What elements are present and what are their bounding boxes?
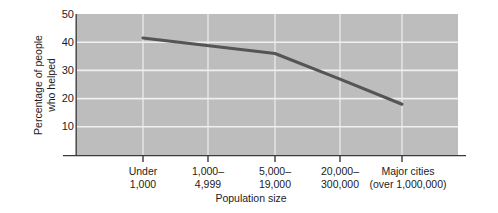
x-axis-tick-label-line-2: 4,999 — [192, 178, 224, 191]
x-axis-ticks — [143, 156, 402, 162]
x-axis-tick-label: 1,000– 4,999 — [192, 165, 224, 190]
x-axis-tick-label: Major cities (over 1,000,000) — [369, 165, 446, 190]
x-axis-tick-label-line-1: 20,000– — [321, 165, 359, 178]
chart-figure: Percentage of people who helped 50 40 30… — [0, 0, 498, 213]
x-axis-tick-label-line-2: 1,000 — [129, 178, 158, 191]
x-axis-tick-label: Under 1,000 — [129, 165, 158, 190]
x-axis-tick-label-line-2: 19,000 — [259, 178, 291, 191]
x-axis-tick-label-line-1: Major cities — [369, 165, 446, 178]
x-axis-tick-label: 5,000– 19,000 — [259, 165, 291, 190]
x-axis-tick-label-line-1: Under — [129, 165, 158, 178]
x-axis-tick-label-line-2: (over 1,000,000) — [369, 178, 446, 191]
x-axis-tick-label-line-2: 300,000 — [321, 178, 359, 191]
plot-background — [77, 14, 458, 155]
x-axis-tick-label: 20,000– 300,000 — [321, 165, 359, 190]
x-axis-tick-label-line-1: 5,000– — [259, 165, 291, 178]
x-axis-title: Population size — [215, 192, 286, 204]
x-axis-tick-label-line-1: 1,000– — [192, 165, 224, 178]
